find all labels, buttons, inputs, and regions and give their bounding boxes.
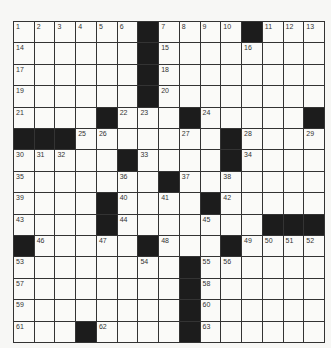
grid-cell[interactable]: 57 <box>14 279 34 299</box>
grid-cell[interactable] <box>263 279 283 299</box>
grid-cell[interactable]: 42 <box>221 193 241 213</box>
grid-cell[interactable]: 52 <box>304 236 324 256</box>
grid-cell[interactable] <box>76 300 96 320</box>
grid-cell[interactable] <box>138 193 158 213</box>
grid-cell[interactable] <box>180 236 200 256</box>
grid-cell[interactable] <box>180 215 200 235</box>
grid-cell[interactable] <box>242 322 262 342</box>
grid-cell[interactable] <box>180 193 200 213</box>
grid-cell[interactable] <box>284 172 304 192</box>
grid-cell[interactable] <box>138 300 158 320</box>
grid-cell[interactable]: 21 <box>14 108 34 128</box>
grid-cell[interactable] <box>97 257 117 277</box>
grid-cell[interactable]: 3 <box>55 22 75 42</box>
grid-cell[interactable] <box>118 236 138 256</box>
grid-cell[interactable]: 48 <box>159 236 179 256</box>
grid-cell[interactable]: 9 <box>201 22 221 42</box>
grid-cell[interactable]: 22 <box>118 108 138 128</box>
grid-cell[interactable] <box>55 236 75 256</box>
grid-cell[interactable]: 55 <box>201 257 221 277</box>
grid-cell[interactable] <box>97 300 117 320</box>
grid-cell[interactable]: 61 <box>14 322 34 342</box>
grid-cell[interactable]: 18 <box>159 65 179 85</box>
grid-cell[interactable] <box>97 150 117 170</box>
grid-cell[interactable] <box>221 300 241 320</box>
grid-cell[interactable] <box>304 300 324 320</box>
grid-cell[interactable]: 35 <box>14 172 34 192</box>
grid-cell[interactable] <box>76 215 96 235</box>
grid-cell[interactable] <box>35 215 55 235</box>
grid-cell[interactable] <box>55 215 75 235</box>
grid-cell[interactable] <box>118 43 138 63</box>
grid-cell[interactable]: 46 <box>35 236 55 256</box>
grid-cell[interactable]: 16 <box>242 43 262 63</box>
grid-cell[interactable]: 63 <box>201 322 221 342</box>
grid-cell[interactable] <box>284 65 304 85</box>
grid-cell[interactable] <box>76 236 96 256</box>
grid-cell[interactable]: 23 <box>138 108 158 128</box>
grid-cell[interactable] <box>35 108 55 128</box>
grid-cell[interactable] <box>159 150 179 170</box>
grid-cell[interactable]: 54 <box>138 257 158 277</box>
grid-cell[interactable] <box>263 172 283 192</box>
grid-cell[interactable]: 30 <box>14 150 34 170</box>
grid-cell[interactable]: 56 <box>221 257 241 277</box>
grid-cell[interactable] <box>304 150 324 170</box>
grid-cell[interactable] <box>263 86 283 106</box>
grid-cell[interactable] <box>35 257 55 277</box>
grid-cell[interactable]: 45 <box>201 215 221 235</box>
grid-cell[interactable] <box>242 279 262 299</box>
grid-cell[interactable] <box>242 86 262 106</box>
grid-cell[interactable] <box>97 172 117 192</box>
grid-cell[interactable] <box>221 322 241 342</box>
grid-cell[interactable] <box>55 108 75 128</box>
grid-cell[interactable] <box>180 43 200 63</box>
grid-cell[interactable] <box>221 65 241 85</box>
grid-cell[interactable] <box>221 108 241 128</box>
grid-cell[interactable]: 60 <box>201 300 221 320</box>
grid-cell[interactable] <box>35 322 55 342</box>
grid-cell[interactable]: 20 <box>159 86 179 106</box>
grid-cell[interactable] <box>76 279 96 299</box>
grid-cell[interactable]: 62 <box>97 322 117 342</box>
grid-cell[interactable] <box>284 279 304 299</box>
grid-cell[interactable]: 7 <box>159 22 179 42</box>
grid-cell[interactable] <box>138 215 158 235</box>
grid-cell[interactable]: 37 <box>180 172 200 192</box>
grid-cell[interactable] <box>242 193 262 213</box>
grid-cell[interactable] <box>221 279 241 299</box>
grid-cell[interactable] <box>159 215 179 235</box>
grid-cell[interactable]: 40 <box>118 193 138 213</box>
grid-cell[interactable] <box>263 193 283 213</box>
grid-cell[interactable] <box>97 279 117 299</box>
grid-cell[interactable]: 2 <box>35 22 55 42</box>
grid-cell[interactable] <box>284 108 304 128</box>
grid-cell[interactable] <box>221 215 241 235</box>
grid-cell[interactable]: 33 <box>138 150 158 170</box>
grid-cell[interactable] <box>284 43 304 63</box>
grid-cell[interactable]: 44 <box>118 215 138 235</box>
grid-cell[interactable]: 19 <box>14 86 34 106</box>
grid-cell[interactable] <box>201 236 221 256</box>
grid-cell[interactable]: 32 <box>55 150 75 170</box>
grid-cell[interactable]: 29 <box>304 129 324 149</box>
grid-cell[interactable] <box>242 215 262 235</box>
grid-cell[interactable] <box>159 257 179 277</box>
grid-cell[interactable]: 17 <box>14 65 34 85</box>
grid-cell[interactable] <box>35 65 55 85</box>
grid-cell[interactable] <box>76 43 96 63</box>
grid-cell[interactable] <box>221 43 241 63</box>
grid-cell[interactable] <box>35 43 55 63</box>
grid-cell[interactable]: 38 <box>221 172 241 192</box>
grid-cell[interactable]: 25 <box>76 129 96 149</box>
grid-cell[interactable]: 24 <box>201 108 221 128</box>
grid-cell[interactable] <box>242 108 262 128</box>
grid-cell[interactable] <box>35 279 55 299</box>
grid-cell[interactable] <box>284 300 304 320</box>
grid-cell[interactable]: 50 <box>263 236 283 256</box>
grid-cell[interactable] <box>263 129 283 149</box>
grid-cell[interactable] <box>35 86 55 106</box>
grid-cell[interactable]: 28 <box>242 129 262 149</box>
grid-cell[interactable] <box>201 129 221 149</box>
grid-cell[interactable]: 11 <box>263 22 283 42</box>
